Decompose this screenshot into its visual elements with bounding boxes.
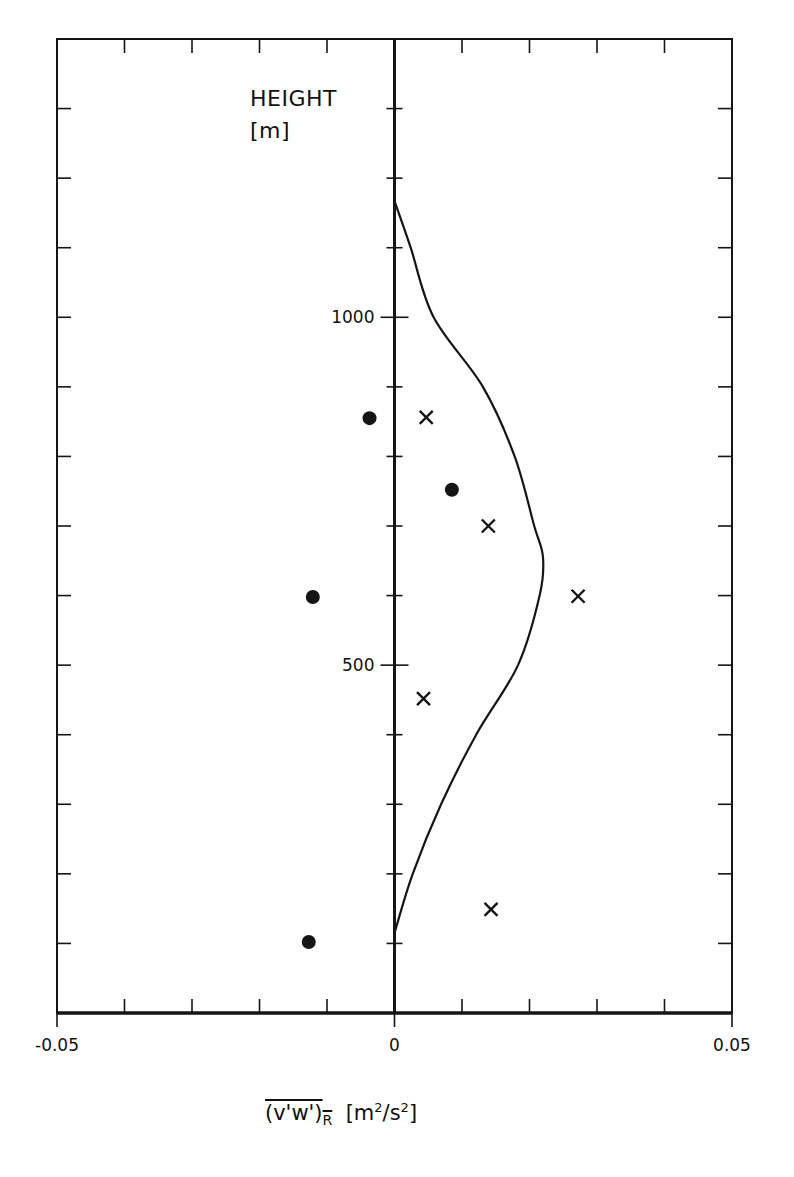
x-axis-unit: [m2/s2] (346, 1101, 417, 1125)
y-axis-unit: [m] (250, 118, 290, 143)
y-tick-label: 500 (342, 655, 374, 675)
y-axis-title: HEIGHT (250, 86, 337, 111)
model-curve (395, 201, 544, 933)
x-tick-label: 0.05 (713, 1035, 751, 1055)
x-axis-title: (v'w')R [m2/s2] (265, 1100, 417, 1128)
x-tick-label: 0 (389, 1035, 400, 1055)
cross-marker (417, 692, 430, 705)
dot-marker (302, 935, 316, 949)
cross-marker (572, 590, 585, 603)
cross-marker (482, 520, 495, 533)
x-axis-quantity: (v'w')R (265, 1101, 332, 1125)
y-tick-label: 1000 (331, 307, 374, 327)
dot-marker (445, 483, 459, 497)
cross-marker (485, 903, 498, 916)
chart-plot-area (0, 0, 794, 1177)
dot-marker (306, 590, 320, 604)
model-curve-path (395, 201, 544, 933)
cross-marker (420, 411, 433, 424)
dot-marker (363, 411, 377, 425)
x-tick-label: -0.05 (35, 1035, 79, 1055)
data-markers (302, 411, 585, 949)
